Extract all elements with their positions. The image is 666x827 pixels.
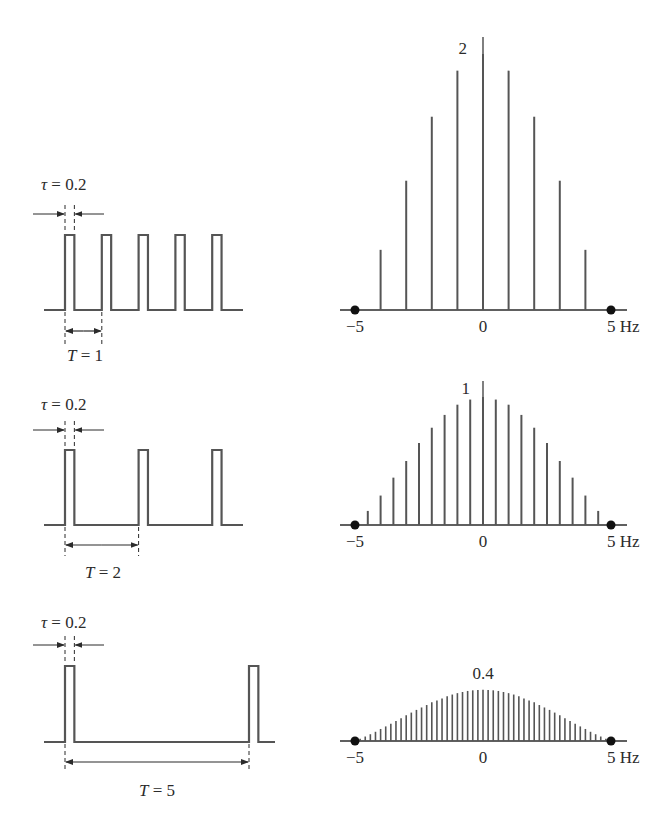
- pulse-train-panel-2: τ = 0.2T = 2: [33, 395, 243, 582]
- marker-dot-plus5: [607, 737, 616, 746]
- tick-label-plus5: 5 Hz: [607, 748, 640, 767]
- tick-label-minus5: −5: [346, 317, 364, 336]
- tau-label: τ = 0.2: [41, 175, 86, 194]
- peak-value-label: 2: [459, 39, 468, 58]
- pulse-train-spectra-figure: τ = 0.2T = 1τ = 0.2T = 2τ = 0.2T = 5 −50…: [0, 0, 666, 827]
- tau-label: τ = 0.2: [41, 613, 86, 632]
- tick-label-minus5: −5: [346, 748, 364, 767]
- marker-dot-minus5: [351, 306, 360, 315]
- period-label: T = 5: [139, 781, 175, 800]
- tick-label-plus5: 5 Hz: [607, 317, 640, 336]
- period-label: T = 2: [85, 563, 121, 582]
- marker-dot-plus5: [607, 521, 616, 530]
- pulse-waveform: [44, 450, 243, 525]
- tau-label: τ = 0.2: [41, 395, 86, 414]
- tick-label-zero: 0: [479, 748, 488, 767]
- peak-value-label: 1: [462, 379, 471, 398]
- pulse-waveform: [44, 666, 275, 742]
- tick-label-plus5: 5 Hz: [607, 532, 640, 551]
- pulse-waveform: [44, 235, 243, 310]
- marker-dot-minus5: [351, 521, 360, 530]
- peak-value-label: 0.4: [472, 664, 494, 683]
- spectrum-panel-3: −505 Hz0.4: [340, 664, 640, 767]
- pulse-train-panel-1: τ = 0.2T = 1: [33, 175, 243, 365]
- spectrum-panel-1: −505 Hz2: [340, 37, 640, 336]
- marker-dot-minus5: [351, 737, 360, 746]
- tick-label-minus5: −5: [346, 532, 364, 551]
- tick-label-zero: 0: [479, 317, 488, 336]
- marker-dot-plus5: [607, 306, 616, 315]
- tick-label-zero: 0: [479, 532, 488, 551]
- period-label: T = 1: [67, 346, 103, 365]
- pulse-train-panel-3: τ = 0.2T = 5: [33, 613, 275, 800]
- spectrum-panel-2: −505 Hz1: [340, 379, 640, 551]
